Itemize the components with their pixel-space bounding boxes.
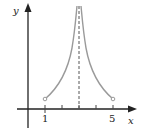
x-axis-label: x — [128, 115, 134, 126]
tick-label-1: 1 — [42, 113, 48, 124]
tick-label-5: 5 — [109, 113, 115, 124]
y-axis-arrow-icon — [25, 3, 32, 12]
x-axis-arrow-icon — [128, 106, 137, 113]
open-endpoint-right — [111, 97, 115, 101]
curve-left-branch — [45, 6, 77, 99]
y-axis-label: y — [12, 5, 19, 16]
curve-right-branch — [81, 6, 113, 99]
open-endpoint-left — [43, 97, 47, 101]
function-graph: y x 1 5 — [0, 0, 142, 133]
